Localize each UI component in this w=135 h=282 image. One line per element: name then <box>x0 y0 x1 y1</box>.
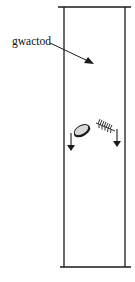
coin-icon <box>72 122 93 140</box>
vacuum-label: gwactod <box>12 35 51 48</box>
tube <box>58 7 131 267</box>
vacuum-tube-diagram: gwactod <box>0 0 135 282</box>
feather-falling-arrow-icon <box>113 129 121 147</box>
coin-falling-arrow-icon <box>67 133 75 151</box>
feather-icon <box>96 119 115 133</box>
label-pointer-arrow-icon <box>50 43 94 64</box>
